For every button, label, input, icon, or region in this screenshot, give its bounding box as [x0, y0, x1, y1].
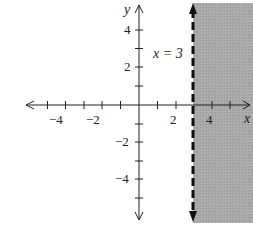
- x-tick-label: −4: [49, 112, 63, 127]
- y-axis-label: y: [122, 2, 131, 17]
- y-tick-label: −4: [115, 171, 129, 186]
- x-tick-label: 4: [206, 112, 213, 127]
- y-tick-label: 2: [124, 59, 131, 74]
- boundary-label: x = 3: [152, 46, 183, 61]
- x-axis-label: x: [243, 111, 251, 126]
- y-tick-label: −2: [115, 134, 129, 149]
- inequality-graph: y x x = 3 −4 −2 2 4 4 2 −2 −4: [0, 0, 253, 229]
- y-axis: [135, 5, 143, 220]
- y-tick-label: 4: [124, 22, 131, 37]
- x-tick-label: 2: [170, 112, 177, 127]
- x-tick-label: −2: [86, 112, 100, 127]
